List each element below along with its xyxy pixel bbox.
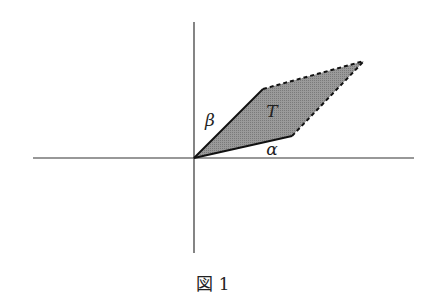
beta-label: β bbox=[204, 110, 215, 130]
parallelogram-figure: β T α 図 1 bbox=[0, 0, 436, 304]
alpha-label: α bbox=[266, 139, 278, 159]
region-t-label: T bbox=[266, 101, 279, 121]
region-t-fill bbox=[194, 61, 364, 158]
figure-caption: 図 1 bbox=[196, 274, 229, 294]
